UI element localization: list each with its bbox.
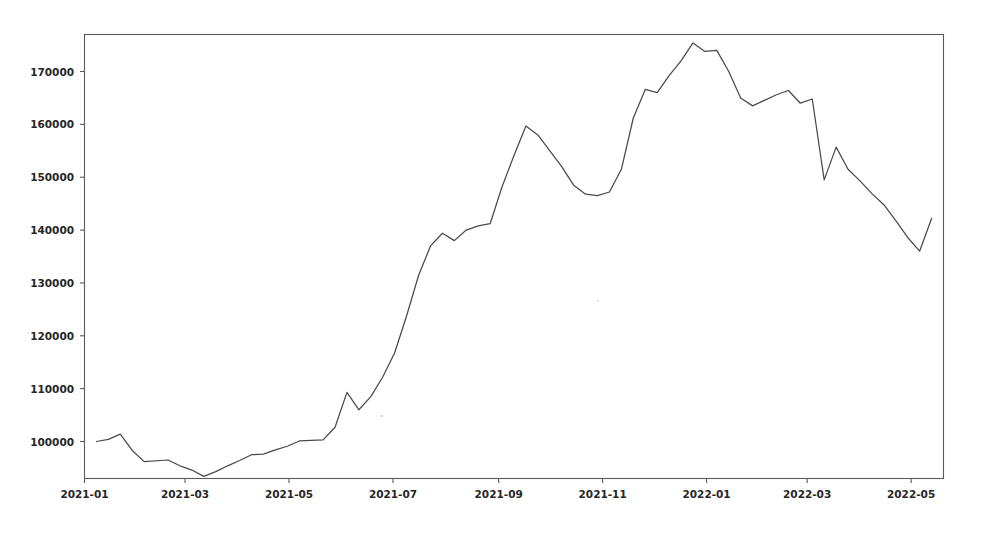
x-axis-tick-label: 2021-07 [369,488,417,500]
scan-artifact-speck [597,300,599,302]
scan-artifact-speck [381,415,383,417]
x-axis-tick-label: 2021-11 [579,488,627,500]
x-axis-tick-label: 2021-09 [475,488,523,500]
x-axis-tick-label: 2022-05 [887,488,935,500]
y-axis-tick-label: 100000 [22,436,74,448]
y-axis-tick-label: 110000 [22,383,74,395]
chart-figure: （元） 100000110000120000130000140000150000… [0,0,981,539]
line-chart-canvas [0,0,981,539]
x-axis-tick-label: 2022-01 [682,488,730,500]
chart-background [0,0,981,539]
y-axis-tick-label: 160000 [22,118,74,130]
y-axis-tick-label: 140000 [22,224,74,236]
x-axis-tick-label: 2021-03 [161,488,209,500]
scan-artifact-speck [28,332,30,334]
x-axis-tick-label: 2022-03 [783,488,831,500]
y-axis-tick-label: 170000 [22,66,74,78]
x-axis-tick-label: 2021-05 [265,488,313,500]
y-axis-tick-label: 130000 [22,277,74,289]
x-axis-tick-label: 2021-01 [60,488,108,500]
y-axis-tick-label: 150000 [22,171,74,183]
